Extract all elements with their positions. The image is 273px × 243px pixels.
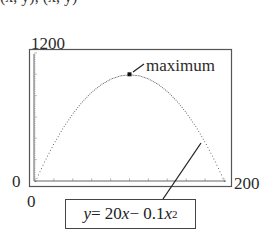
eq-part2: − 0.1: [129, 204, 164, 224]
eq-x2: x: [164, 204, 172, 224]
y-axis-ticks: [34, 53, 37, 181]
eq-x1: x: [122, 204, 130, 224]
eq-part1: = 20: [91, 204, 122, 224]
equation-label-box: y = 20x − 0.1x2: [65, 199, 196, 229]
equation-leader-line: [163, 143, 201, 199]
maximum-marker: [128, 72, 132, 76]
parabola-curve: [35, 74, 225, 181]
graph-frame: [30, 50, 232, 187]
maximum-leader-line: [133, 64, 144, 72]
eq-y: y: [83, 204, 91, 224]
